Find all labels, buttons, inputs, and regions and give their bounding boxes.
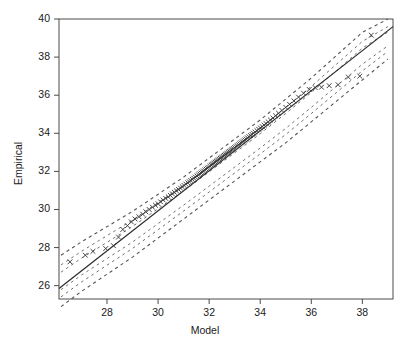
y-tick-label: 30: [0, 202, 50, 214]
data-point-marker: [280, 108, 285, 113]
data-point-marker: [103, 246, 108, 251]
data-point-marker: [68, 259, 73, 264]
y-tick-label: 34: [0, 126, 50, 138]
data-points: [68, 33, 374, 264]
data-point-marker: [301, 91, 306, 96]
y-tick-label: 26: [0, 279, 50, 291]
data-point-marker: [369, 33, 374, 38]
data-point-marker: [346, 75, 351, 80]
x-tick-label: 36: [291, 306, 331, 318]
data-point-marker: [283, 105, 288, 110]
data-point-marker: [313, 85, 318, 90]
x-tick-label: 34: [240, 306, 280, 318]
data-point-marker: [296, 95, 301, 100]
data-point-marker: [287, 102, 292, 107]
y-tick-label: 28: [0, 241, 50, 253]
plot-canvas: [0, 0, 410, 349]
data-point-marker: [319, 85, 324, 90]
data-point-marker: [327, 83, 332, 88]
y-tick-label: 38: [0, 50, 50, 62]
data-point-marker: [120, 227, 125, 232]
data-point-marker: [357, 74, 362, 79]
confidence-envelope: [61, 19, 388, 307]
x-tick-label: 30: [138, 306, 178, 318]
x-tick-label: 28: [87, 306, 127, 318]
y-tick-label: 32: [0, 164, 50, 176]
qq-plot-figure: 2628303234363840 283032343638 Empirical …: [0, 0, 410, 349]
y-tick-label: 40: [0, 12, 50, 24]
y-tick-label: 36: [0, 88, 50, 100]
data-point-marker: [292, 99, 297, 104]
x-tick-label: 38: [342, 306, 382, 318]
data-point-marker: [336, 82, 341, 87]
x-axis-title: Model: [0, 324, 410, 336]
data-point-marker: [91, 249, 96, 254]
data-point-marker: [111, 243, 116, 248]
x-tick-label: 32: [189, 306, 229, 318]
tick-marks: [54, 19, 362, 304]
y-axis-title: Empirical: [12, 142, 24, 185]
